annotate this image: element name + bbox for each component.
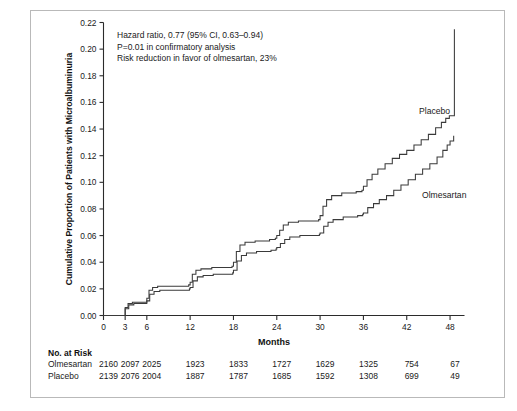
risk-value: 1592 xyxy=(316,371,335,381)
x-tick-label: 18 xyxy=(229,322,239,332)
risk-value: 1308 xyxy=(359,371,378,381)
x-tick-label: 48 xyxy=(445,322,455,332)
risk-value: 67 xyxy=(450,359,460,369)
y-tick-label: 0.16 xyxy=(80,97,97,107)
y-tick-label: 0.20 xyxy=(80,44,97,54)
risk-value: 2025 xyxy=(142,359,161,369)
risk-row-label: Olmesartan xyxy=(48,359,92,369)
curve-olmesartan xyxy=(104,136,454,316)
risk-value: 1685 xyxy=(272,371,291,381)
y-tick-label: 0.18 xyxy=(80,71,97,81)
risk-table-heading: No. at Risk xyxy=(48,348,92,358)
annotation-line-2: P=0.01 in confirmatory analysis xyxy=(117,42,235,52)
series-label-placebo: Placebo xyxy=(419,106,450,116)
risk-table: Olmesartan216020972025192318331727162913… xyxy=(48,359,460,381)
y-tick-label: 0.22 xyxy=(80,18,97,28)
x-tick-label: 42 xyxy=(402,322,412,332)
risk-value: 2076 xyxy=(121,371,140,381)
x-tick-label: 30 xyxy=(315,322,325,332)
x-tick-label: 36 xyxy=(359,322,369,332)
risk-value: 2097 xyxy=(121,359,140,369)
x-tick-label: 24 xyxy=(272,322,282,332)
x-tick-labels: 03612182430364248 xyxy=(101,322,455,332)
x-tick-label: 6 xyxy=(144,322,149,332)
x-tick-marks xyxy=(104,316,451,321)
y-tick-label: 0.02 xyxy=(80,284,97,294)
risk-value: 1787 xyxy=(229,371,248,381)
chart-svg: 0.000.020.040.060.080.100.120.140.160.18… xyxy=(0,0,517,411)
y-tick-label: 0.10 xyxy=(80,177,97,187)
y-tick-labels: 0.000.020.040.060.080.100.120.140.160.18… xyxy=(80,18,97,321)
risk-value: 1923 xyxy=(186,359,205,369)
series-label-olmesartan: Olmesartan xyxy=(422,190,467,200)
risk-value: 2004 xyxy=(142,371,161,381)
y-tick-label: 0.00 xyxy=(80,311,97,321)
risk-value: 1833 xyxy=(229,359,248,369)
y-tick-label: 0.12 xyxy=(80,151,97,161)
y-tick-label: 0.14 xyxy=(80,124,97,134)
risk-value: 1887 xyxy=(186,371,205,381)
risk-value: 1629 xyxy=(316,359,335,369)
kaplan-meier-chart: 0.000.020.040.060.080.100.120.140.160.18… xyxy=(0,0,517,411)
x-axis-title: Months xyxy=(258,337,290,347)
y-tick-label: 0.06 xyxy=(80,231,97,241)
risk-value: 754 xyxy=(405,359,419,369)
y-tick-label: 0.04 xyxy=(80,257,97,267)
curve-placebo xyxy=(104,29,455,315)
x-tick-label: 12 xyxy=(185,322,195,332)
x-tick-label: 0 xyxy=(101,322,106,332)
risk-value: 49 xyxy=(450,371,460,381)
risk-value: 1325 xyxy=(359,359,378,369)
annotation-line-3: Risk reduction in favor of olmesartan, 2… xyxy=(117,53,277,63)
risk-value: 2160 xyxy=(99,359,118,369)
risk-row-label: Placebo xyxy=(48,371,79,381)
risk-value: 699 xyxy=(405,371,419,381)
annotation-line-1: Hazard ratio, 0.77 (95% CI, 0.63–0.94) xyxy=(117,30,263,40)
risk-value: 1727 xyxy=(272,359,291,369)
y-tick-marks xyxy=(100,23,104,316)
risk-value: 2139 xyxy=(99,371,118,381)
y-tick-label: 0.08 xyxy=(80,204,97,214)
x-tick-label: 3 xyxy=(123,322,128,332)
y-axis-title: Cumulative Proportion of Patients with M… xyxy=(64,53,74,286)
